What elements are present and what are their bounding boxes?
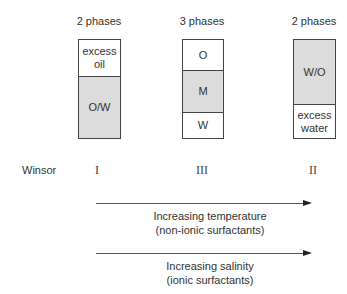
caption-temperature: Increasing temperature (non-ionic surfac…	[100, 209, 320, 237]
segment-excess-water: excess water	[294, 104, 335, 138]
tube-winsor-iii: O M W	[182, 39, 224, 139]
phase-count-label-3: 2 phases	[284, 15, 344, 27]
caption-line-1: Increasing temperature	[100, 209, 320, 223]
winsor-type-iii: III	[196, 163, 208, 178]
segment-excess-oil: excess oil	[79, 40, 120, 76]
winsor-type-i: I	[95, 163, 99, 178]
caption-salinity: Increasing salinity (ionic surfactants)	[100, 259, 320, 287]
tube-winsor-i: excess oil O/W	[78, 39, 121, 139]
segment-w-o: W/O	[294, 40, 335, 104]
segment-label: O/W	[89, 101, 111, 114]
segment-microemulsion: M	[183, 70, 223, 112]
caption-line-2: (ionic surfactants)	[100, 273, 320, 287]
segment-label: W	[198, 119, 208, 132]
segment-o-w: O/W	[79, 76, 120, 138]
segment-label: excess oil	[82, 45, 118, 71]
arrow-increasing-salinity	[96, 253, 310, 254]
segment-label: O	[199, 49, 208, 62]
phase-count-label-2: 3 phases	[172, 15, 232, 27]
tube-winsor-ii: W/O excess water	[293, 39, 336, 139]
segment-label: M	[198, 85, 207, 98]
winsor-type-ii: II	[309, 163, 317, 178]
phase-count-label-1: 2 phases	[69, 15, 129, 27]
segment-water: W	[183, 112, 223, 138]
winsor-label: Winsor	[22, 164, 56, 176]
caption-line-1: Increasing salinity	[100, 259, 320, 273]
segment-oil: O	[183, 40, 223, 70]
caption-line-2: (non-ionic surfactants)	[100, 223, 320, 237]
segment-label: excess water	[295, 109, 335, 135]
segment-label: W/O	[304, 66, 326, 79]
arrow-increasing-temperature	[96, 203, 310, 204]
